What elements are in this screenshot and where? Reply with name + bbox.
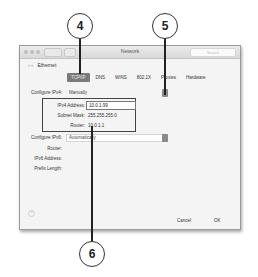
configure-ipv4-label: Configure IPv4: xyxy=(16,90,62,95)
tab-tcpip[interactable]: TCP/IP xyxy=(67,73,90,82)
leader-line-4 xyxy=(79,38,81,74)
back-to-ethernet[interactable]: ‹·› Ethernet xyxy=(28,62,56,68)
tab-bar: TCP/IP DNS WINS 802.1X Proxies Hardware xyxy=(67,73,210,82)
title-bar: Network Search xyxy=(20,46,240,59)
configure-ipv4-select[interactable]: Manually xyxy=(66,89,168,97)
tab-wins[interactable]: WINS xyxy=(111,73,131,82)
configure-ipv6-label: Configure IPv6: xyxy=(16,135,62,140)
ipv6-address-label: IPv6 Address: xyxy=(16,156,62,161)
cancel-button[interactable]: Cancel xyxy=(177,218,191,223)
callout-4: 4 xyxy=(67,13,93,39)
ipv4-fields-highlight: IPv4 Address: 10.0.1.99 Subnet Mask: 255… xyxy=(42,98,136,132)
callout-number: 4 xyxy=(77,19,84,33)
prefix-length-label: Prefix Length: xyxy=(16,166,62,171)
subnet-mask-value[interactable]: 255.255.255.0 xyxy=(88,113,117,118)
callout-number: 5 xyxy=(162,19,169,33)
network-window: Network Search ‹·› Ethernet TCP/IP DNS W… xyxy=(19,45,241,230)
callout-6: 6 xyxy=(79,241,105,267)
help-button[interactable]: ? xyxy=(28,210,35,217)
router-label: Router: xyxy=(45,123,85,128)
ok-button[interactable]: OK xyxy=(214,218,221,223)
configure-ipv6-select[interactable]: Automatically xyxy=(66,134,168,142)
leader-line-6 xyxy=(91,126,93,242)
configure-ipv4-value: Manually xyxy=(69,90,87,95)
leader-line-5 xyxy=(164,38,166,95)
tab-hardware[interactable]: Hardware xyxy=(182,73,210,82)
popup-arrow-icon xyxy=(162,134,168,142)
tab-dns[interactable]: DNS xyxy=(92,73,110,82)
callout-5: 5 xyxy=(152,13,178,39)
tab-proxies[interactable]: Proxies xyxy=(157,73,180,82)
subnet-mask-label: Subnet Mask: xyxy=(45,113,85,118)
ipv4-address-input[interactable]: 10.0.1.99 xyxy=(86,101,136,110)
ipv4-address-label: IPv4 Address: xyxy=(45,103,85,108)
callout-number: 6 xyxy=(89,247,96,261)
chevron-left-right-icon: ‹·› xyxy=(28,62,33,68)
tab-8021x[interactable]: 802.1X xyxy=(133,73,155,82)
ethernet-label: Ethernet xyxy=(37,62,56,68)
ipv6-router-label: Router: xyxy=(16,146,62,151)
search-input[interactable]: Search xyxy=(190,48,236,57)
